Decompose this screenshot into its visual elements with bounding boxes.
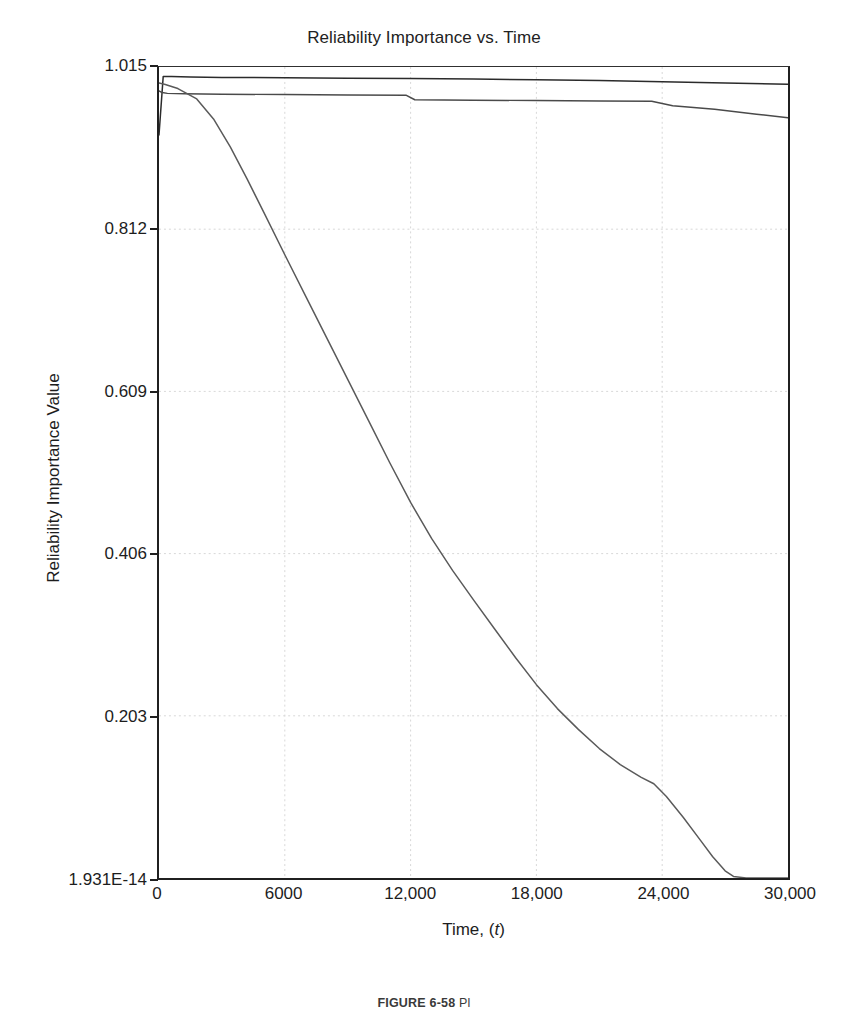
y-tick-label: 0.406 bbox=[7, 544, 157, 564]
x-axis-variable: t bbox=[494, 920, 499, 939]
y-tick-label: 1.931E-14 bbox=[7, 870, 157, 890]
x-tick-label: 6000 bbox=[265, 884, 303, 904]
x-tick-label: 18,000 bbox=[511, 884, 563, 904]
x-tick-label: 0 bbox=[152, 884, 161, 904]
figure-caption-label: FIGURE 6-58 bbox=[377, 996, 455, 1010]
plot-area bbox=[157, 66, 790, 880]
x-tick-label: 12,000 bbox=[384, 884, 436, 904]
figure-caption: FIGURE 6-58 Pl bbox=[0, 996, 848, 1010]
y-tick-label: 0.203 bbox=[7, 707, 157, 727]
figure-container: Reliability Importance vs. Time 1.0150.8… bbox=[0, 0, 848, 1010]
y-axis-tick-labels: 1.0150.8120.6090.4060.2031.931E-14 bbox=[0, 66, 157, 880]
chart-title: Reliability Importance vs. Time bbox=[0, 28, 848, 48]
y-tick-label: 1.015 bbox=[7, 56, 157, 76]
series-line bbox=[159, 91, 788, 118]
figure-caption-text: Pl bbox=[459, 996, 471, 1010]
x-tick-label: 30,000 bbox=[764, 884, 816, 904]
y-tick-label: 0.609 bbox=[7, 382, 157, 402]
x-tick-label: 24,000 bbox=[637, 884, 689, 904]
series-line bbox=[159, 83, 788, 878]
data-series-lines bbox=[159, 67, 788, 878]
x-axis-tick-labels: 0600012,00018,00024,00030,000 bbox=[157, 884, 790, 918]
x-axis-title: Time, (t) bbox=[157, 920, 790, 940]
y-axis-title: Reliability Importance Value bbox=[44, 278, 64, 678]
y-tick-label: 0.812 bbox=[7, 219, 157, 239]
series-line bbox=[159, 77, 788, 135]
